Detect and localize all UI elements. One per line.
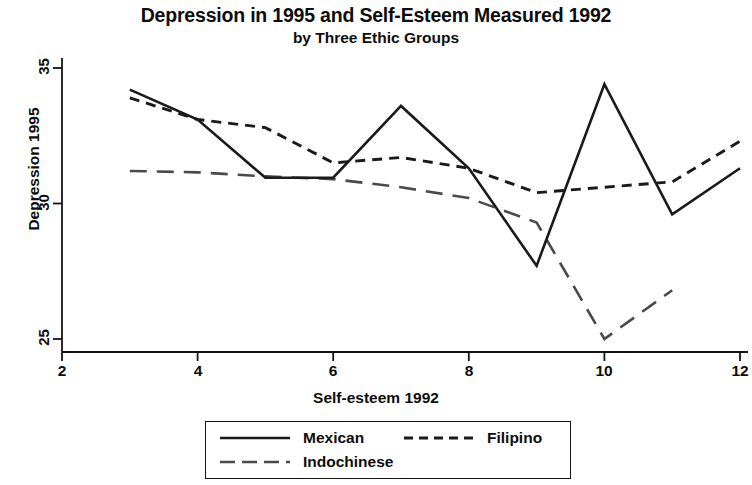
legend-item-indochinese: Indochinese <box>218 452 393 472</box>
x-axis-title: Self-esteem 1992 <box>0 389 752 407</box>
legend-key-short-dash-icon <box>402 431 476 445</box>
chart-figure: Depression in 1995 and Self-Esteem Measu… <box>0 0 752 485</box>
series-line-indochinese <box>130 171 672 339</box>
legend: Mexican Indochinese Filipino <box>205 421 571 479</box>
y-tick-marks <box>53 68 62 339</box>
legend-label-filipino: Filipino <box>487 429 542 447</box>
legend-item-mexican: Mexican <box>218 428 364 448</box>
legend-key-long-dash-icon <box>218 455 292 469</box>
legend-item-filipino: Filipino <box>402 428 542 448</box>
legend-key-solid-icon <box>218 431 292 445</box>
legend-label-indochinese: Indochinese <box>303 453 393 471</box>
plot-area <box>0 0 752 485</box>
series-line-filipino <box>130 98 740 193</box>
legend-label-mexican: Mexican <box>303 429 364 447</box>
x-tick-marks <box>62 352 740 361</box>
